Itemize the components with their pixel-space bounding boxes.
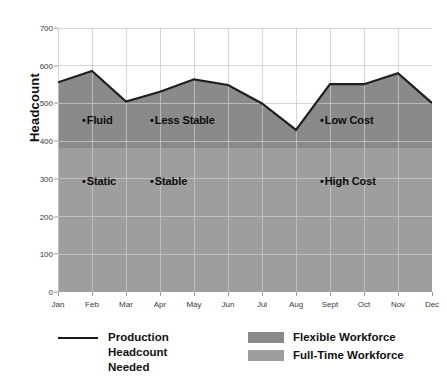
legend-line-text-line2: Headcount xyxy=(108,345,169,360)
x-axis-tick-label: Apr xyxy=(154,300,166,309)
x-axis-tick-mark xyxy=(160,292,161,296)
x-axis-tick-label: May xyxy=(186,300,201,309)
plot-area: 7006005004003002001000 JanFebMarAprMayJu… xyxy=(58,28,432,292)
chart-annotation: •Stable xyxy=(150,175,187,187)
annotation-label: Low Cost xyxy=(325,114,374,126)
x-axis-tick-label: Oct xyxy=(358,300,370,309)
annotation-marker-icon: • xyxy=(82,175,86,187)
headcount-area-chart: Headcount 7006005004003002001000 JanFebM… xyxy=(0,0,447,392)
x-axis-tick-mark xyxy=(364,292,365,296)
y-axis-tick-mark xyxy=(54,254,58,255)
annotation-label: Stable xyxy=(155,175,187,187)
y-axis-tick-mark xyxy=(54,141,58,142)
legend-label-flexible: Flexible Workforce xyxy=(293,331,396,343)
annotation-marker-icon: • xyxy=(320,175,324,187)
line-swatch-icon xyxy=(58,337,98,339)
flexible-workforce-swatch-icon xyxy=(248,332,284,343)
legend-entry-flexible: Flexible Workforce xyxy=(248,331,404,343)
annotation-marker-icon: • xyxy=(320,114,324,126)
x-axis-tick-label: Feb xyxy=(85,300,99,309)
chart-annotation: •Less Stable xyxy=(150,114,215,126)
legend-line-text: Production Headcount Needed xyxy=(108,330,169,375)
x-axis-tick-label: Jul xyxy=(257,300,267,309)
fulltime-workforce-area xyxy=(58,148,432,292)
x-axis-tick-label: Jan xyxy=(52,300,65,309)
y-axis-tick-label: 500 xyxy=(40,99,53,108)
y-axis-tick-label: 600 xyxy=(40,61,53,70)
annotation-label: Static xyxy=(87,175,116,187)
x-axis-tick-label: Jun xyxy=(222,300,235,309)
y-axis-tick-label: 0 xyxy=(49,288,53,297)
legend-line-text-line1: Production xyxy=(108,330,169,345)
legend-line-text-line3: Needed xyxy=(108,360,169,375)
legend-entry-fulltime: Full-Time Workforce xyxy=(248,349,404,361)
chart-annotation: •Fluid xyxy=(82,114,113,126)
y-axis-tick-mark xyxy=(54,216,58,217)
y-axis-tick-label: 400 xyxy=(40,137,53,146)
x-axis-tick-mark xyxy=(432,292,433,296)
y-axis-tick-label: 700 xyxy=(40,24,53,33)
legend-line-entry: Production Headcount Needed xyxy=(58,330,169,375)
annotation-label: Less Stable xyxy=(155,114,215,126)
x-axis-tick-mark xyxy=(398,292,399,296)
chart-annotation: •Low Cost xyxy=(320,114,373,126)
chart-annotation: •High Cost xyxy=(320,175,376,187)
annotation-label: Fluid xyxy=(87,114,113,126)
legend-band-entries: Flexible Workforce Full-Time Workforce xyxy=(248,331,404,367)
annotation-label: High Cost xyxy=(325,175,376,187)
y-axis-tick-label: 100 xyxy=(40,250,53,259)
fulltime-workforce-swatch-icon xyxy=(248,350,284,361)
x-axis-tick-label: Dec xyxy=(425,300,439,309)
y-axis-tick-mark xyxy=(54,65,58,66)
plot-svg xyxy=(58,28,432,292)
x-axis-tick-label: Nov xyxy=(391,300,405,309)
x-axis-tick-mark xyxy=(194,292,195,296)
x-axis-tick-mark xyxy=(228,292,229,296)
x-axis-tick-mark xyxy=(330,292,331,296)
x-axis-tick-mark xyxy=(58,292,59,296)
x-axis-tick-label: Mar xyxy=(119,300,133,309)
annotation-marker-icon: • xyxy=(150,175,154,187)
legend-label-fulltime: Full-Time Workforce xyxy=(293,349,404,361)
x-axis-tick-mark xyxy=(92,292,93,296)
x-axis-tick-mark xyxy=(262,292,263,296)
x-axis-tick-mark xyxy=(296,292,297,296)
y-axis-tick-mark xyxy=(54,28,58,29)
x-axis-tick-mark xyxy=(126,292,127,296)
x-axis-tick-label: Sept xyxy=(322,300,338,309)
annotation-marker-icon: • xyxy=(150,114,154,126)
flexible-workforce-area xyxy=(58,71,432,148)
x-axis-tick-label: Aug xyxy=(289,300,303,309)
y-axis-tick-label: 200 xyxy=(40,212,53,221)
annotation-marker-icon: • xyxy=(82,114,86,126)
y-axis-tick-mark xyxy=(54,103,58,104)
chart-annotation: •Static xyxy=(82,175,116,187)
y-axis-tick-mark xyxy=(54,178,58,179)
y-axis-tick-label: 300 xyxy=(40,174,53,183)
chart-legend: Production Headcount Needed Flexible Wor… xyxy=(0,330,447,392)
